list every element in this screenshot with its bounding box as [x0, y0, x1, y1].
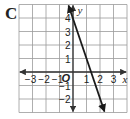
x-tick-label: 2 [97, 74, 103, 85]
y-tick-label: 2 [65, 40, 71, 51]
y-tick-label: 4 [65, 13, 71, 24]
y-tick-label: 3 [65, 27, 71, 38]
origin-label: O [61, 72, 70, 84]
y-tick-label: −2 [59, 94, 71, 105]
x-tick-label: 1 [84, 74, 90, 85]
x-axis-label: x [122, 73, 128, 85]
x-tick-label: −2 [38, 74, 50, 85]
y-axis-label: y [77, 4, 83, 16]
x-tick-label: −3 [25, 74, 37, 85]
coordinate-plane-chart: −3−2−11234321−1−2Oxy [0, 0, 130, 119]
y-tick-label: 1 [65, 54, 71, 65]
x-tick-label: 3 [111, 74, 117, 85]
